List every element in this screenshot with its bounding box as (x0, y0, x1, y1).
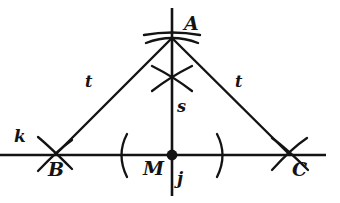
midpoint-dot-M (167, 150, 178, 161)
point-label-C: C (292, 160, 307, 179)
geometry-figure: A B C M k j s t t (0, 0, 340, 203)
segment-label-t-right: t (235, 74, 242, 90)
point-label-B: B (48, 160, 64, 179)
point-label-M: M (143, 159, 164, 178)
point-label-A: A (184, 14, 199, 33)
segment-label-s: s (177, 99, 186, 115)
line-label-j: j (177, 170, 183, 187)
segment-AB (55, 38, 172, 155)
segment-label-t-left: t (85, 74, 92, 90)
line-label-k: k (14, 128, 26, 145)
